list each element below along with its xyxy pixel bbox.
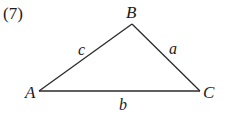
side-c-line	[39, 24, 132, 91]
side-label-a: a	[169, 41, 177, 57]
side-label-c: c	[78, 42, 85, 58]
side-a-line	[132, 24, 200, 91]
vertex-label-b: B	[126, 4, 136, 21]
problem-number: (7)	[3, 5, 23, 22]
triangle-figure: (7) B A C c a b	[0, 0, 252, 117]
vertex-label-c: C	[203, 84, 214, 101]
vertex-label-a: A	[25, 84, 35, 101]
side-label-b: b	[119, 97, 127, 113]
